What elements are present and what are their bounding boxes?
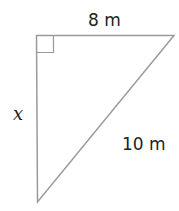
top-side-label: 8 m — [88, 12, 121, 29]
triangle-figure — [0, 0, 179, 211]
right-angle-marker — [37, 36, 54, 53]
left-side-label: x — [13, 105, 23, 123]
right-triangle-diagram: 8 m x 10 m — [0, 0, 179, 211]
hypotenuse-label: 10 m — [122, 136, 166, 153]
triangle-outline — [37, 36, 175, 203]
